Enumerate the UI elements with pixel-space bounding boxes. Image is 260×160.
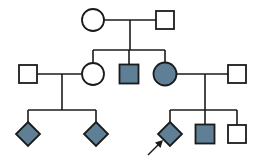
generation-2-group <box>19 63 246 111</box>
generation-3-group <box>16 122 246 146</box>
pedigree-canvas <box>0 0 260 160</box>
generation-2-female-unaffected[interactable] <box>82 63 104 85</box>
generation-1-female-unaffected[interactable] <box>82 9 104 31</box>
sibship-generation-3-right-group <box>170 110 237 125</box>
proband-arrow-group <box>148 140 163 155</box>
generation-2-female-affected[interactable] <box>154 63 177 86</box>
generation-2-male-affected[interactable] <box>120 65 139 84</box>
generation-3-male-affected[interactable] <box>196 125 215 144</box>
generation-1-male-unaffected[interactable] <box>156 11 174 29</box>
generation-1-group <box>82 9 174 50</box>
generation-3-diamond-affected-left-1[interactable] <box>16 122 40 146</box>
pedigree-chart <box>0 0 260 160</box>
generation-3-male-unaffected[interactable] <box>228 125 246 143</box>
sibship-generation-2-group <box>93 50 165 64</box>
generation-3-diamond-affected-left-2[interactable] <box>84 122 108 146</box>
sibship-generation-3-left-group <box>28 110 96 122</box>
generation-2-male-spouse-right-unaffected[interactable] <box>228 65 246 83</box>
generation-2-male-spouse-left-unaffected[interactable] <box>19 65 37 83</box>
